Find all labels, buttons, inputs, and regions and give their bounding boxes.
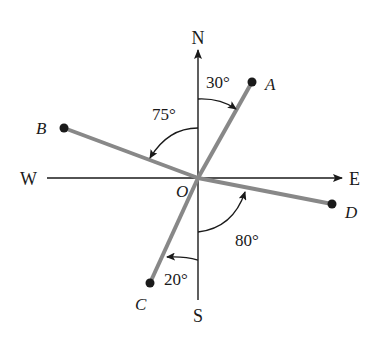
compass-diagram: N S E W O A B C D 30° 75° 20° 80°	[0, 0, 386, 346]
point-d-label: D	[344, 203, 358, 222]
ray-od	[198, 178, 332, 204]
diagram-canvas: N S E W O A B C D 30° 75° 20° 80°	[0, 0, 386, 346]
angle-b-label: 75°	[152, 105, 176, 124]
point-b-dot	[60, 124, 69, 133]
ray-oa	[198, 82, 252, 178]
point-b-label: B	[36, 119, 47, 138]
arc-20	[167, 257, 198, 260]
ray-oc	[150, 178, 198, 283]
origin-label: O	[176, 182, 188, 201]
point-c-label: C	[135, 295, 147, 314]
arc-30	[198, 99, 236, 109]
point-a-label: A	[264, 75, 276, 94]
point-c-dot	[146, 279, 155, 288]
angle-c-label: 20°	[164, 270, 188, 289]
north-label: N	[192, 28, 205, 48]
west-label: W	[20, 169, 37, 189]
arc-80	[198, 192, 245, 232]
angle-d-label: 80°	[235, 231, 259, 250]
south-label: S	[193, 306, 203, 326]
east-label: E	[349, 169, 360, 189]
point-a-dot	[248, 78, 257, 87]
point-d-dot	[328, 200, 337, 209]
ray-ob	[64, 128, 198, 178]
arc-75	[150, 128, 198, 158]
angle-a-label: 30°	[206, 73, 230, 92]
